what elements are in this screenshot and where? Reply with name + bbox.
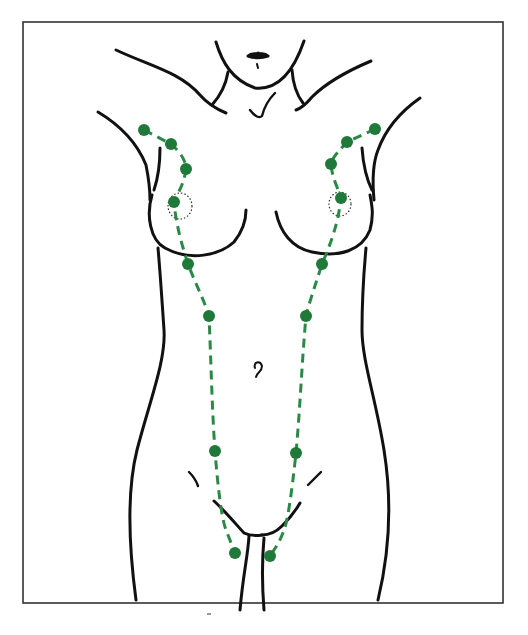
axilla-right xyxy=(362,148,372,190)
chin-mark xyxy=(257,64,258,68)
areola-markers xyxy=(168,192,351,219)
lymph-node-dot-right-5 xyxy=(316,258,328,270)
thigh-inner-left xyxy=(240,536,249,610)
lymph-node-dot-left-4 xyxy=(168,196,180,208)
sternal-notch xyxy=(250,93,275,117)
lymph-node-dot-right-3 xyxy=(325,158,337,170)
hip-crease-right xyxy=(308,472,321,485)
navel xyxy=(255,362,262,377)
mouth xyxy=(248,53,268,58)
lymph-node-dot-left-8 xyxy=(229,547,241,559)
breast-right xyxy=(276,195,372,254)
axilla-left xyxy=(154,148,160,190)
arm-right xyxy=(373,98,420,200)
lymph-node-dot-right-7 xyxy=(290,447,302,459)
torso-left xyxy=(130,248,164,600)
torso-diagram xyxy=(0,0,528,635)
hip-crease-left xyxy=(189,472,198,486)
lymph-node-dot-left-6 xyxy=(203,310,215,322)
lymph-node-dot-left-5 xyxy=(182,258,194,270)
neck-left xyxy=(212,72,228,105)
neck-right xyxy=(292,70,303,103)
pathway-right xyxy=(270,129,375,556)
lymph-node-dot-right-4 xyxy=(335,192,347,204)
shoulder-right xyxy=(296,61,371,110)
lymph-node-dot-left-3 xyxy=(180,163,192,175)
lymph-node-dot-left-1 xyxy=(138,124,150,136)
lymph-node-dot-right-6 xyxy=(300,310,312,322)
groin-right xyxy=(262,503,300,535)
lymph-node-dot-right-2 xyxy=(341,136,353,148)
breast-left xyxy=(149,195,246,256)
lymph-node-dot-left-7 xyxy=(209,445,221,457)
jaw-line xyxy=(216,41,304,88)
lymph-node-dot-right-1 xyxy=(369,123,381,135)
pathway-left xyxy=(144,130,235,553)
lymph-node-dot-right-8 xyxy=(264,550,276,562)
lymph-node-dot-left-2 xyxy=(165,138,177,150)
shoulder-left xyxy=(116,50,226,113)
torso-right xyxy=(362,248,389,600)
thigh-inner-right xyxy=(263,538,265,610)
